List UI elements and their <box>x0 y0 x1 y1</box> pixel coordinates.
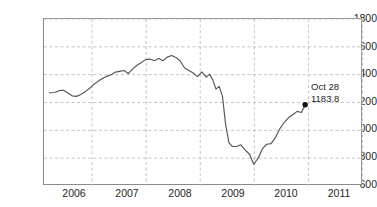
data-line-index <box>49 55 305 164</box>
x-axis-tick-2011: 2011 <box>317 188 361 199</box>
annotation-value: 1183.8 <box>311 93 339 104</box>
x-axis-tick-2009: 2009 <box>211 188 255 199</box>
chart-figure: 1800 1600 1400 1200 1000 800 600 2006 20… <box>0 0 377 207</box>
x-axis-tick-2010: 2010 <box>264 188 308 199</box>
annotation-date: Oct 28 <box>311 81 339 92</box>
x-axis-tick-2008: 2008 <box>158 188 202 199</box>
last-point-marker <box>302 102 307 107</box>
x-axis-tick-2006: 2006 <box>52 188 96 199</box>
x-axis-tick-2007: 2007 <box>105 188 149 199</box>
